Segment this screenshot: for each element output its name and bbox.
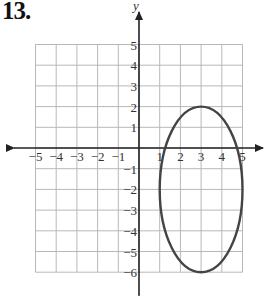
y-tick-label: 1 [131, 120, 138, 135]
coordinate-plane: y −5−4−3−2−11234554321−1−2−3−4−5−6 [0, 0, 271, 296]
x-tick-label: 4 [219, 149, 226, 164]
x-tick-label: −4 [49, 149, 63, 164]
x-tick-label: 3 [198, 149, 205, 164]
y-tick-label: 4 [131, 58, 138, 73]
x-tick-label: −3 [70, 149, 84, 164]
y-tick-label: −5 [123, 245, 137, 260]
y-tick-label: −6 [123, 265, 137, 280]
x-tick-label: 2 [177, 149, 184, 164]
tick-labels: −5−4−3−2−11234554321−1−2−3−4−5−6 [29, 38, 246, 281]
y-tick-label: −4 [123, 224, 137, 239]
x-tick-label: −2 [91, 149, 105, 164]
y-tick-label: −2 [123, 182, 137, 197]
y-tick-label: 2 [131, 100, 138, 115]
y-tick-label: −1 [123, 162, 137, 177]
y-tick-label: 3 [131, 79, 138, 94]
y-axis-label: y [131, 0, 139, 13]
y-tick-label: −3 [123, 203, 137, 218]
y-tick-label: 5 [131, 38, 138, 53]
x-tick-label: −5 [29, 149, 43, 164]
